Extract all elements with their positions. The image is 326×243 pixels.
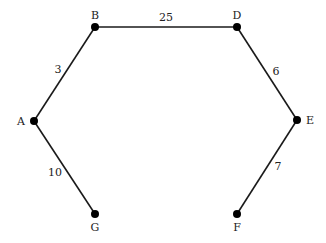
node-a [30,117,38,125]
edge-weight-label: 10 [48,166,62,179]
graph-diagram: 3256710ABDEFG [0,0,326,243]
edge-a-b [34,27,95,121]
edge-weight-label: 3 [55,63,62,76]
node-label: F [233,221,241,234]
node-label: G [91,221,100,234]
edge-weight-label: 25 [159,11,173,24]
graph-canvas: 3256710ABDEFG [0,0,326,243]
edge-weight-label: 7 [275,160,282,173]
edge-d-e [237,27,297,120]
node-label: B [91,9,99,22]
node-label: E [306,114,314,127]
node-label: A [16,115,26,128]
edge-weight-label: 6 [273,65,280,78]
node-d [233,23,241,31]
node-b [91,23,99,31]
edge-e-f [237,120,297,214]
edge-a-g [34,121,95,214]
node-g [91,210,99,218]
node-f [233,210,241,218]
node-label: D [233,9,242,22]
node-e [293,116,301,124]
